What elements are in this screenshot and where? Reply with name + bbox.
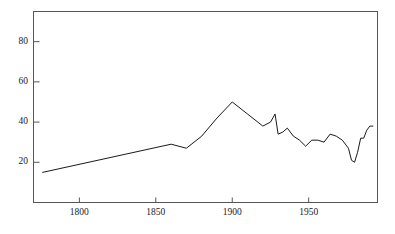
x-tick-label: 1800 (57, 207, 101, 217)
y-tick-label: 80 (6, 36, 28, 46)
y-tick-label: 20 (6, 156, 28, 166)
x-axis-ticks (79, 198, 308, 203)
x-tick-label: 1900 (210, 207, 254, 217)
line-chart-svg (0, 0, 395, 234)
y-tick-label: 40 (6, 116, 28, 126)
y-axis-ticks (34, 42, 40, 163)
x-tick-label: 1950 (287, 207, 331, 217)
y-tick-label: 60 (6, 76, 28, 86)
data-line-series-1 (43, 102, 373, 172)
chart-figure: 20406080 1800185019001950 (0, 0, 395, 234)
x-tick-label: 1850 (134, 207, 178, 217)
plot-frame (34, 12, 378, 203)
